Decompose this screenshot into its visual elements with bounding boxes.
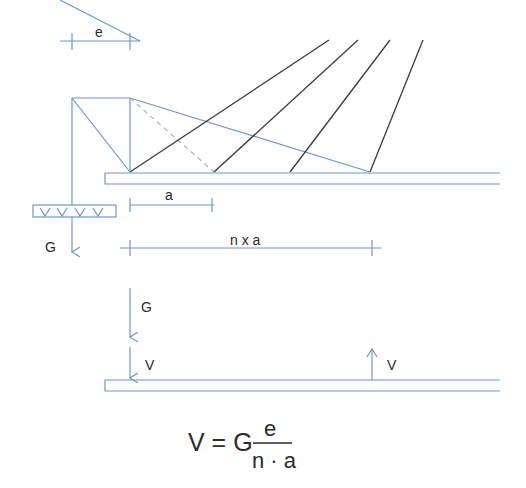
counterweight: G [33,205,116,255]
pylon-frame [72,98,370,205]
deck-bottom [105,380,500,391]
label-v-right: V [387,357,397,373]
label-a: a [165,187,173,203]
label-g-top: G [45,239,56,255]
stay-cables [130,40,423,172]
formula-denominator: n · a [252,448,297,473]
label-n-x-a: n x a [230,232,261,248]
formula-lhs: V = G [188,428,253,456]
label-v-left: V [145,357,155,373]
deck-top [105,173,500,184]
dimension-a: a [130,187,214,212]
dimension-n-a: n x a [120,232,382,256]
free-body: G V V [105,288,500,391]
label-g-bottom: G [141,299,152,315]
cable-stayed-diagram: e G a n x a [0,0,526,488]
dimension-e: e [60,0,140,50]
label-e: e [95,24,103,40]
formula-numerator: e [264,416,276,441]
formula: V = G e n · a [188,416,297,473]
